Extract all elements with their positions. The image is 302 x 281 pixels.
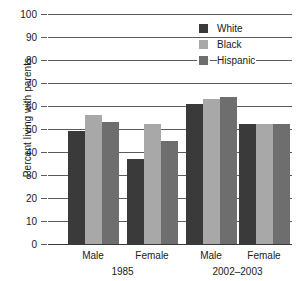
y-tick-label: 60 xyxy=(26,101,37,112)
tick-mark-30 xyxy=(41,175,47,176)
y-tick-label: 20 xyxy=(26,193,37,204)
y-tick-label: 50 xyxy=(26,124,37,135)
tick-mark-20 xyxy=(41,198,47,199)
legend-swatch-wrap xyxy=(197,22,210,35)
y-tick-label: 0 xyxy=(31,239,37,250)
x-category-label: Male xyxy=(200,250,222,261)
legend-label: Black xyxy=(217,39,242,50)
x-group-label: 2002–2003 xyxy=(212,266,262,277)
y-tick-label: 30 xyxy=(26,170,37,181)
x-category-label: Female xyxy=(247,250,280,261)
legend: WhiteBlackHispanic xyxy=(197,22,256,67)
y-tick-label: 70 xyxy=(26,78,37,89)
y-tick-label: 100 xyxy=(20,9,37,20)
tick-mark-70 xyxy=(41,83,47,84)
bar-hispanic-2 xyxy=(220,97,237,244)
bar-hispanic-0 xyxy=(102,122,119,244)
legend-label: White xyxy=(217,23,244,34)
bar-black-0 xyxy=(85,115,102,244)
tick-mark-40 xyxy=(41,152,47,153)
y-axis-title: Percent living with parents xyxy=(22,13,33,223)
bar-hispanic-1 xyxy=(161,141,178,245)
y-tick-label: 90 xyxy=(26,32,37,43)
x-category-label: Male xyxy=(82,250,104,261)
tick-mark-10 xyxy=(41,221,47,222)
legend-swatch-icon xyxy=(199,40,208,49)
tick-mark-90 xyxy=(41,37,47,38)
bar-white-1 xyxy=(127,159,144,244)
x-group-label: 1985 xyxy=(111,266,133,277)
bar-black-2 xyxy=(203,99,220,244)
legend-label: Hispanic xyxy=(217,55,256,66)
y-tick-label: 40 xyxy=(26,147,37,158)
bar-white-3 xyxy=(239,124,256,244)
legend-item-white: White xyxy=(197,22,256,35)
legend-swatch-wrap xyxy=(197,54,210,67)
tick-mark-60 xyxy=(41,106,47,107)
legend-swatch-icon xyxy=(199,24,208,33)
x-category-label: Female xyxy=(135,250,168,261)
legend-item-hispanic: Hispanic xyxy=(197,54,256,67)
bar-chart: Percent living with parents 010203040506… xyxy=(0,0,302,281)
y-tick-label: 80 xyxy=(26,55,37,66)
bar-hispanic-3 xyxy=(273,124,290,244)
bar-black-3 xyxy=(256,124,273,244)
bar-black-1 xyxy=(144,124,161,244)
bar-white-2 xyxy=(186,104,203,244)
legend-swatch-wrap xyxy=(197,38,210,51)
y-tick-label: 10 xyxy=(26,216,37,227)
gridline-0 xyxy=(48,244,292,245)
legend-item-black: Black xyxy=(197,38,256,51)
tick-mark-50 xyxy=(41,129,47,130)
tick-mark-100 xyxy=(41,14,47,15)
legend-swatch-icon xyxy=(199,56,208,65)
tick-mark-80 xyxy=(41,60,47,61)
tick-mark-0 xyxy=(41,244,47,245)
bar-white-0 xyxy=(68,131,85,244)
